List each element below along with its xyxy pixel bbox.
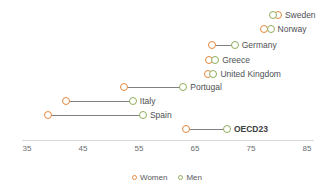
row-connector-line [48, 115, 143, 116]
legend-swatch-women-icon [132, 175, 137, 180]
chart-row: Norway [0, 23, 334, 37]
chart-row: Germany [0, 39, 334, 53]
row-connector-line [66, 101, 133, 102]
chart-row: Greece [0, 54, 334, 68]
marker-women[interactable] [208, 41, 216, 49]
legend-label: Men [186, 173, 202, 182]
marker-women[interactable] [44, 111, 52, 119]
row-label-italy: Italy [140, 94, 156, 108]
x-axis: 354555657585 [0, 140, 334, 160]
marker-women[interactable] [120, 83, 128, 91]
chart-row: OECD23 [0, 123, 334, 137]
legend-label: Women [140, 173, 167, 182]
x-tick-label: 65 [191, 144, 200, 153]
chart-row: United Kingdom [0, 68, 334, 82]
marker-men[interactable] [223, 125, 231, 133]
chart-row: Italy [0, 95, 334, 109]
row-label-oecd23: OECD23 [234, 122, 268, 136]
dumbbell-chart: SwedenNorwayGermanyGreeceUnited KingdomP… [0, 0, 334, 188]
row-label-greece: Greece [222, 53, 250, 67]
x-tick-label: 85 [303, 144, 312, 153]
chart-row: Sweden [0, 9, 334, 23]
legend-item-women[interactable]: Women [132, 173, 167, 182]
marker-men[interactable] [139, 111, 147, 119]
x-axis-line [22, 140, 314, 141]
row-label-germany: Germany [242, 38, 277, 52]
legend-item-men[interactable]: Men [178, 173, 202, 182]
x-tick-label: 55 [135, 144, 144, 153]
x-tick-label: 45 [79, 144, 88, 153]
row-label-sweden: Sweden [285, 8, 316, 22]
chart-legend: WomenMen [0, 170, 334, 184]
x-tick-label: 35 [23, 144, 32, 153]
row-label-norway: Norway [278, 22, 307, 36]
marker-men[interactable] [209, 70, 217, 78]
row-label-spain: Spain [150, 108, 172, 122]
chart-row: Portugal [0, 81, 334, 95]
marker-men[interactable] [267, 25, 275, 33]
x-tick-label: 75 [247, 144, 256, 153]
marker-women[interactable] [62, 97, 70, 105]
row-label-united-kingdom: United Kingdom [220, 67, 280, 81]
marker-women[interactable] [182, 125, 190, 133]
marker-men[interactable] [129, 97, 137, 105]
row-label-portugal: Portugal [190, 80, 222, 94]
row-connector-line [186, 129, 227, 130]
row-connector-line [124, 87, 183, 88]
legend-swatch-men-icon [178, 175, 183, 180]
chart-row: Spain [0, 109, 334, 123]
marker-men[interactable] [231, 41, 239, 49]
marker-men[interactable] [179, 83, 187, 91]
marker-men[interactable] [211, 56, 219, 64]
plot-area: SwedenNorwayGermanyGreeceUnited KingdomP… [0, 0, 334, 142]
